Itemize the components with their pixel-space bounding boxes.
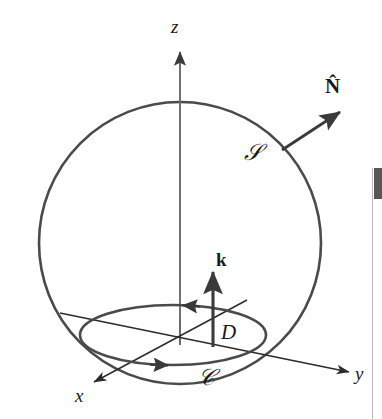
z-axis-label: z <box>171 17 178 36</box>
x-axis-label: x <box>75 386 83 405</box>
vertical-scrollbar-track[interactable] <box>372 168 382 419</box>
curve-orientation-arrow-front <box>150 365 168 366</box>
disk-label: D <box>221 322 236 343</box>
figure-canvas: z x y k N̂ 𝒮 D 𝒞 <box>0 0 382 419</box>
surface-label: 𝒮 <box>244 141 262 164</box>
normal-vector-arrow <box>282 112 340 150</box>
y-axis-label: y <box>355 364 363 383</box>
curve-label: 𝒞 <box>198 366 215 389</box>
vertical-scrollbar-thumb[interactable] <box>374 168 382 199</box>
disk-boundary-ellipse <box>80 305 266 365</box>
curve-orientation-arrow-back <box>183 305 200 306</box>
k-vector-label: k <box>216 250 227 269</box>
normal-vector-label: N̂ <box>325 76 340 97</box>
stokes-theorem-diagram <box>0 0 382 419</box>
